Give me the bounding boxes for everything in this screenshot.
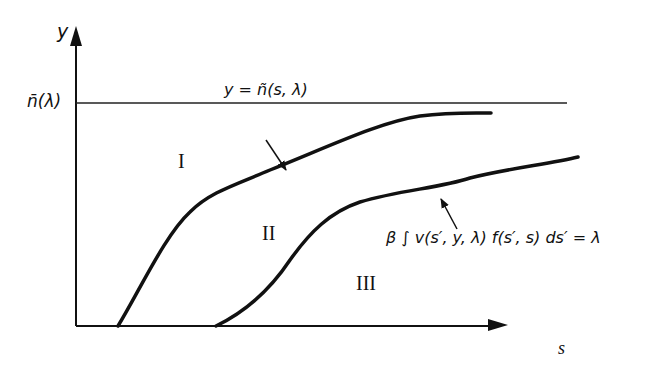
x-axis-label: s (558, 338, 565, 359)
upper-curve (118, 113, 491, 326)
region-3-label: III (356, 272, 376, 295)
x-axis (76, 319, 508, 331)
upper-curve-pointer-arrow-icon (266, 140, 286, 170)
y-axis-arrow-icon (70, 26, 82, 46)
y-axis (70, 26, 82, 326)
y-axis-label: y (57, 20, 68, 42)
upper-curve-label: y = ñ(s, λ) (224, 80, 308, 99)
lower-curve-label: β ∫ v(s′, y, λ) f(s′, s) ds′ = λ (386, 228, 601, 247)
region-1-label: I (178, 150, 185, 173)
x-axis-arrow-icon (488, 319, 508, 331)
region-2-label: II (262, 222, 275, 245)
lower-curve-pointer-arrow-icon (441, 199, 457, 229)
diagram-canvas (0, 0, 650, 368)
asymptote-label: n̄(λ) (27, 91, 61, 111)
